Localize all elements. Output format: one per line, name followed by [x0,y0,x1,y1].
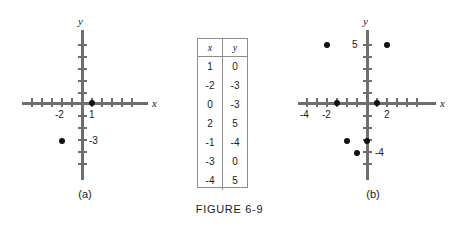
cell-x: -2 [198,76,223,95]
x-tick-b [396,98,398,107]
x-tick-label-b: -4 [300,110,309,120]
y-tick-a [78,80,87,82]
x-tick-a [61,98,63,107]
y-tick-label-a: -3 [89,136,98,146]
data-point [59,138,65,144]
y-tick-a [78,68,87,70]
table-row: -1 -4 [198,133,247,152]
cell-y: -4 [223,133,248,152]
table-row: 2 5 [198,114,247,133]
cell-x: -4 [198,171,223,190]
cell-y: 5 [223,114,248,133]
cell-x: -1 [198,133,223,152]
data-point [89,100,95,106]
data-point [324,42,330,48]
panel-label-a: (a) [0,188,170,200]
y-tick-b [363,163,372,165]
y-tick-label-b: 5 [352,40,358,50]
x-tick-b [326,98,328,107]
y-tick-a [78,44,87,46]
table-header-row: x y [198,39,247,57]
y-tick-b [363,80,372,82]
y-tick-b [363,151,372,153]
x-tick-b [306,98,308,107]
x-tick-a [31,98,33,107]
x-tick-a [71,98,73,107]
figure-stage: y x -2 1 -3 (a) x y 1 0 -2 [0,0,459,228]
y-tick-a [78,56,87,58]
cell-y: 0 [223,152,248,171]
x-tick-a [51,98,53,107]
data-point [364,138,370,144]
y-tick-b [363,56,372,58]
y-tick-a [78,163,87,165]
x-tick-b [416,98,418,107]
cell-y: -3 [223,76,248,95]
cell-x: 1 [198,57,223,77]
x-tick-label-a: 1 [89,110,95,120]
table-row: 1 0 [198,57,247,77]
figure-caption: FIGURE 6-9 [0,203,459,215]
x-tick-a [41,98,43,107]
y-tick-a [78,151,87,153]
x-tick-b [346,98,348,107]
cell-y: 5 [223,171,248,190]
x-tick-b [386,98,388,107]
y-tick-a [78,139,87,141]
data-point [354,150,360,156]
cell-y: -3 [223,95,248,114]
y-tick-label-b: -4 [375,148,384,158]
y-tick-b [363,92,372,94]
coordinate-plane-a: y x -2 1 -3 (a) [0,0,170,210]
table-row: -4 5 [198,171,247,190]
x-tick-b [316,98,318,107]
coordinate-table: x y 1 0 -2 -3 0 -3 2 5 [197,38,248,188]
data-point [344,138,350,144]
x-tick-label-b: 2 [384,110,390,120]
column-header-x: x [198,39,223,57]
y-axis-a [81,30,84,180]
x-tick-label-a: -2 [55,110,64,120]
x-tick-a [121,98,123,107]
x-axis-label-b: x [440,98,445,109]
y-tick-b [363,44,372,46]
data-point [384,42,390,48]
y-axis-b [366,30,369,180]
x-tick-b [406,98,408,107]
table-row: -2 -3 [198,76,247,95]
x-tick-b [356,98,358,107]
panel-label-b: (b) [288,188,458,200]
y-axis-label-a: y [78,16,83,27]
y-tick-b [363,68,372,70]
table-row: -3 0 [198,152,247,171]
data-point [374,100,380,106]
y-tick-a [78,127,87,129]
column-header-y: y [223,39,248,57]
cell-x: 2 [198,114,223,133]
cell-x: -3 [198,152,223,171]
x-tick-a [131,98,133,107]
y-tick-a [78,92,87,94]
coordinate-plane-b: y x -4 -2 2 5 -4 (b) [288,0,458,210]
data-point [334,100,340,106]
y-tick-b [363,115,372,117]
table-row: 0 -3 [198,95,247,114]
y-tick-b [363,127,372,129]
y-tick-a [78,115,87,117]
x-tick-label-b: -2 [322,110,331,120]
cell-y: 0 [223,57,248,77]
cell-x: 0 [198,95,223,114]
x-tick-a [101,98,103,107]
x-axis-label-a: x [152,98,157,109]
x-tick-a [111,98,113,107]
y-axis-label-b: y [363,16,368,27]
